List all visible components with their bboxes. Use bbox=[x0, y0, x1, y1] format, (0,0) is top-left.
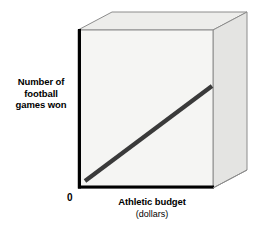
origin-tick-label: 0 bbox=[67, 192, 73, 203]
box-right-face bbox=[213, 12, 247, 188]
y-axis-label: Number of football games won bbox=[8, 76, 74, 111]
y-axis-label-line-3: games won bbox=[8, 99, 74, 111]
y-axis-label-line-2: football bbox=[8, 88, 74, 100]
chart-canvas: Number of football games won 0 Athletic … bbox=[0, 0, 256, 233]
x-axis-label: Athletic budget (dollars) bbox=[96, 196, 208, 220]
x-axis-label-units: (dollars) bbox=[96, 208, 208, 220]
y-axis-label-line-1: Number of bbox=[8, 76, 74, 88]
x-axis-label-main: Athletic budget bbox=[96, 196, 208, 208]
plot-area-face bbox=[78, 30, 213, 188]
